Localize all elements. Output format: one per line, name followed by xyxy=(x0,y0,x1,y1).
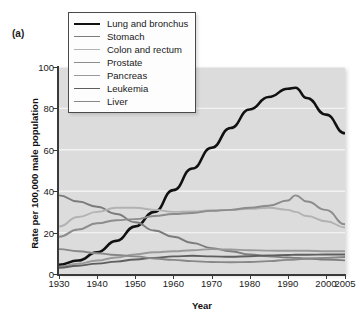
y-tick-mark xyxy=(53,67,58,68)
x-tick-label: 1980 xyxy=(239,278,260,289)
x-tick-label: 1970 xyxy=(201,278,222,289)
legend-label: Stomach xyxy=(107,30,145,43)
series-line-colon-and-rectum xyxy=(59,208,345,228)
series-line-lung-and-bronchus xyxy=(59,88,345,265)
legend-line-swatch xyxy=(74,36,100,37)
x-tick-mark xyxy=(250,275,251,279)
legend-item: Pancreas xyxy=(74,69,188,82)
y-tick-label: 80 xyxy=(24,103,54,114)
legend-item: Lung and bronchus xyxy=(74,17,188,30)
x-tick-mark xyxy=(326,275,327,279)
x-tick-label: 1940 xyxy=(87,278,108,289)
legend-label: Leukemia xyxy=(107,82,148,95)
x-tick-label: 1990 xyxy=(277,278,298,289)
y-axis-ticks: 020406080100 xyxy=(22,0,54,323)
legend-item: Liver xyxy=(74,95,188,108)
x-tick-mark xyxy=(135,275,136,279)
x-tick-label: 1930 xyxy=(48,278,69,289)
legend-line-swatch xyxy=(74,75,100,76)
legend-line-swatch xyxy=(74,101,100,102)
legend-item: Leukemia xyxy=(74,82,188,95)
x-tick-label: 1950 xyxy=(125,278,146,289)
x-axis-line xyxy=(57,274,346,276)
y-tick-label: 40 xyxy=(24,186,54,197)
legend-item: Stomach xyxy=(74,30,188,43)
x-tick-label: 2005 xyxy=(334,278,355,289)
legend-label: Colon and rectum xyxy=(107,43,182,56)
x-tick-mark xyxy=(97,275,98,279)
x-tick-mark xyxy=(288,275,289,279)
x-tick-label: 2000 xyxy=(315,278,336,289)
y-tick-mark xyxy=(53,191,58,192)
x-tick-mark xyxy=(59,275,60,279)
legend-item: Prostate xyxy=(74,56,188,69)
series-line-prostate xyxy=(59,195,345,236)
y-tick-label: 60 xyxy=(24,144,54,155)
y-tick-mark xyxy=(53,108,58,109)
chart-legend: Lung and bronchusStomachColon and rectum… xyxy=(68,12,196,113)
y-tick-mark xyxy=(53,274,58,275)
y-tick-label: 100 xyxy=(24,62,54,73)
legend-label: Pancreas xyxy=(107,69,147,82)
legend-line-swatch xyxy=(74,62,100,63)
x-axis-title: Year xyxy=(59,300,345,311)
legend-item: Colon and rectum xyxy=(74,43,188,56)
y-tick-mark xyxy=(53,150,58,151)
legend-line-swatch xyxy=(74,23,100,25)
legend-line-swatch xyxy=(74,88,100,89)
x-tick-label: 1960 xyxy=(163,278,184,289)
legend-label: Lung and bronchus xyxy=(107,17,188,30)
y-tick-mark xyxy=(53,233,58,234)
legend-line-swatch xyxy=(74,49,100,50)
y-tick-label: 20 xyxy=(24,227,54,238)
legend-label: Liver xyxy=(107,95,128,108)
x-tick-mark xyxy=(173,275,174,279)
y-axis-line xyxy=(57,66,59,275)
x-tick-mark xyxy=(212,275,213,279)
x-tick-mark xyxy=(345,275,346,279)
figure-panel: (a) Rate per 100,000 male population Yea… xyxy=(0,0,364,323)
legend-label: Prostate xyxy=(107,56,142,69)
